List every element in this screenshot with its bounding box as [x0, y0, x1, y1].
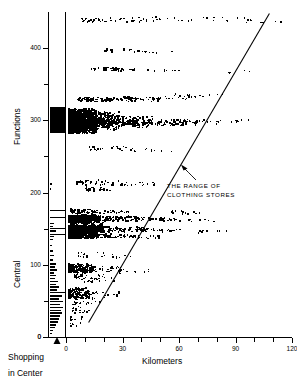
data-point: [86, 292, 87, 293]
data-point: [102, 269, 104, 271]
data-point: [89, 219, 91, 221]
data-point: [178, 20, 179, 21]
data-point: [129, 69, 131, 71]
data-point: [158, 237, 159, 238]
data-point: [97, 148, 99, 150]
data-point: [110, 190, 112, 192]
data-point: [199, 120, 200, 121]
data-point: [188, 20, 189, 21]
data-point: [113, 237, 115, 239]
data-point: [92, 112, 94, 114]
data-point: [80, 269, 82, 271]
data-point: [89, 294, 90, 295]
y-tick: [44, 229, 49, 230]
data-point: [158, 98, 160, 100]
marginal-bar: [50, 183, 52, 185]
data-point: [90, 294, 91, 295]
data-point: [145, 149, 146, 150]
data-point: [139, 118, 141, 120]
data-point: [111, 70, 113, 72]
data-point: [75, 219, 77, 221]
data-point: [115, 20, 117, 22]
data-point: [102, 237, 104, 239]
data-point: [87, 101, 89, 103]
data-point: [117, 220, 119, 222]
data-point: [80, 100, 82, 102]
data-point: [142, 185, 143, 186]
data-point: [138, 236, 139, 237]
data-point: [107, 269, 109, 271]
marginal-bar: [50, 286, 60, 288]
marginal-bar: [50, 330, 54, 332]
marginal-bar: [50, 217, 65, 218]
data-point: [148, 217, 150, 219]
data-point: [176, 119, 178, 121]
data-point: [222, 94, 223, 95]
data-point: [72, 125, 74, 127]
data-point: [85, 182, 87, 184]
data-point: [91, 232, 93, 234]
data-point: [123, 116, 125, 118]
data-point: [134, 271, 135, 272]
data-point: [83, 301, 84, 302]
data-point: [111, 51, 113, 53]
data-point: [76, 132, 78, 134]
data-point: [102, 292, 103, 293]
data-point: [96, 218, 98, 220]
data-point: [189, 121, 190, 122]
data-point: [104, 295, 105, 296]
data-point: [139, 126, 141, 128]
data-point: [147, 238, 148, 239]
data-point: [102, 229, 104, 231]
data-point: [103, 100, 105, 102]
data-point: [110, 123, 112, 125]
data-point: [78, 292, 80, 294]
data-point: [127, 234, 129, 236]
data-point: [105, 121, 107, 123]
data-point: [159, 123, 161, 125]
data-point: [165, 124, 167, 126]
data-point: [150, 235, 151, 236]
data-point: [78, 182, 80, 184]
marginal-bar: [50, 304, 61, 306]
data-point: [110, 233, 112, 235]
data-point: [148, 124, 150, 126]
x-tick: [141, 338, 142, 342]
data-point: [113, 294, 114, 295]
data-point: [130, 49, 132, 51]
data-point: [81, 228, 83, 230]
data-point: [152, 118, 154, 120]
data-point: [250, 20, 251, 21]
data-point: [107, 182, 109, 184]
data-point: [72, 310, 73, 311]
data-point: [175, 93, 176, 94]
data-point: [113, 128, 115, 130]
data-point: [216, 121, 218, 123]
data-point: [142, 123, 144, 125]
data-point: [146, 237, 147, 238]
data-point: [153, 184, 154, 185]
data-point: [183, 120, 184, 121]
data-point: [94, 278, 95, 279]
marginal-bar: [50, 289, 58, 291]
marginal-bar: [50, 269, 58, 271]
data-point: [148, 269, 149, 270]
data-point: [93, 19, 95, 21]
data-point: [187, 213, 189, 215]
overlay-vectors: [0, 0, 297, 382]
data-point: [81, 18, 83, 20]
data-point: [100, 189, 102, 191]
y-tick-label: 100: [22, 261, 41, 268]
data-point: [218, 121, 220, 123]
data-point: [146, 51, 147, 52]
data-point: [130, 220, 132, 222]
data-point: [79, 278, 80, 279]
data-point: [185, 212, 187, 214]
data-point: [131, 184, 132, 185]
data-point: [130, 216, 132, 218]
data-point: [91, 281, 92, 282]
data-point: [105, 226, 107, 228]
data-point: [262, 22, 263, 23]
data-point: [191, 19, 192, 20]
data-point: [142, 182, 143, 183]
